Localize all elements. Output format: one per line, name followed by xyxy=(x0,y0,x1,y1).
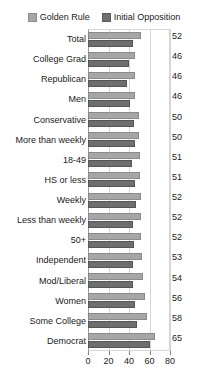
bar-initial-opposition xyxy=(88,100,130,107)
bar-golden-rule xyxy=(88,193,141,200)
legend-swatch-light-icon xyxy=(28,13,37,22)
bar-golden-rule xyxy=(88,152,140,159)
category-label: Independent xyxy=(0,256,86,265)
value-label: 56 xyxy=(172,294,182,303)
category-label: HS or less xyxy=(0,176,86,185)
axis-tick-label: 40 xyxy=(124,357,134,366)
bar-golden-rule xyxy=(88,273,143,280)
value-label: 46 xyxy=(172,52,182,61)
value-label: 58 xyxy=(172,314,182,323)
axis-tick xyxy=(150,351,151,355)
category-label: Weekly xyxy=(0,196,86,205)
bar-group xyxy=(88,152,170,167)
bar-golden-rule xyxy=(88,253,142,260)
chart-legend: Golden Rule Initial Opposition xyxy=(0,10,208,24)
plot-area xyxy=(88,29,170,351)
value-label: 50 xyxy=(172,113,182,122)
bar-golden-rule xyxy=(88,52,135,59)
value-label: 65 xyxy=(172,334,182,343)
bar-group xyxy=(88,112,170,127)
bar-initial-opposition xyxy=(88,281,133,288)
value-label: 54 xyxy=(172,274,182,283)
bar-group xyxy=(88,172,170,187)
bar-initial-opposition xyxy=(88,40,133,47)
value-label: 52 xyxy=(172,193,182,202)
bar-rows xyxy=(88,29,170,351)
bar-initial-opposition xyxy=(88,60,129,67)
axis-tick-label: 60 xyxy=(144,357,154,366)
bar-initial-opposition xyxy=(88,321,137,328)
category-axis: TotalCollege GradRepublicanMenConservati… xyxy=(0,29,86,351)
value-label: 50 xyxy=(172,133,182,142)
axis-tick xyxy=(109,351,110,355)
value-label: 46 xyxy=(172,72,182,81)
x-axis: 020406080 xyxy=(88,351,170,373)
category-label: Women xyxy=(0,297,86,306)
bar-initial-opposition xyxy=(88,241,134,248)
gridline xyxy=(170,29,171,351)
bar-group xyxy=(88,273,170,288)
value-label: 52 xyxy=(172,213,182,222)
value-labels: 52464646505051515252525354565865 xyxy=(172,29,198,351)
category-label: Democrat xyxy=(0,337,86,346)
bar-group xyxy=(88,32,170,47)
category-label: 18-49 xyxy=(0,156,86,165)
axis-tick-label: 0 xyxy=(85,357,90,366)
bar-initial-opposition xyxy=(88,180,135,187)
bar-initial-opposition xyxy=(88,301,135,308)
bar-golden-rule xyxy=(88,132,139,139)
bar-group xyxy=(88,52,170,67)
legend-label-initial-opposition: Initial Opposition xyxy=(114,13,181,22)
legend-item-golden-rule: Golden Rule xyxy=(28,13,90,22)
bar-group xyxy=(88,72,170,87)
category-label: Republican xyxy=(0,75,86,84)
bar-initial-opposition xyxy=(88,160,132,167)
category-label: Less than weekly xyxy=(0,216,86,225)
value-label: 53 xyxy=(172,253,182,262)
axis-tick xyxy=(88,351,89,355)
bar-group xyxy=(88,333,170,348)
bar-golden-rule xyxy=(88,233,141,240)
axis-tick xyxy=(129,351,130,355)
bar-golden-rule xyxy=(88,333,155,340)
legend-label-golden-rule: Golden Rule xyxy=(40,13,90,22)
bar-group xyxy=(88,213,170,228)
category-label: Total xyxy=(0,35,86,44)
bar-golden-rule xyxy=(88,72,135,79)
category-label: Mod/Liberal xyxy=(0,277,86,286)
bar-golden-rule xyxy=(88,213,141,220)
bar-initial-opposition xyxy=(88,221,133,228)
bar-golden-rule xyxy=(88,172,140,179)
axis-tick xyxy=(170,351,171,355)
category-label: 50+ xyxy=(0,236,86,245)
bar-golden-rule xyxy=(88,313,147,320)
category-label: Conservative xyxy=(0,116,86,125)
bar-group xyxy=(88,193,170,208)
category-label: More than weekly xyxy=(0,136,86,145)
value-label: 52 xyxy=(172,32,182,41)
axis-tick-label: 20 xyxy=(103,357,113,366)
legend-swatch-dark-icon xyxy=(102,13,111,22)
bar-golden-rule xyxy=(88,32,141,39)
bar-group xyxy=(88,132,170,147)
value-label: 46 xyxy=(172,92,182,101)
bar-initial-opposition xyxy=(88,261,133,268)
bar-group xyxy=(88,293,170,308)
chart-title-cropped xyxy=(0,0,208,7)
bar-group xyxy=(88,313,170,328)
bar-initial-opposition xyxy=(88,201,136,208)
bar-initial-opposition xyxy=(88,341,150,348)
value-label: 51 xyxy=(172,153,182,162)
bar-golden-rule xyxy=(88,293,145,300)
bar-group xyxy=(88,92,170,107)
bar-initial-opposition xyxy=(88,80,127,87)
bar-group xyxy=(88,233,170,248)
bar-initial-opposition xyxy=(88,120,134,127)
bar-golden-rule xyxy=(88,92,135,99)
bar-group xyxy=(88,253,170,268)
bar-golden-rule xyxy=(88,112,139,119)
value-label: 51 xyxy=(172,173,182,182)
value-label: 52 xyxy=(172,233,182,242)
bar-chart: Golden Rule Initial Opposition TotalColl… xyxy=(0,0,208,373)
legend-item-initial-opposition: Initial Opposition xyxy=(102,13,181,22)
